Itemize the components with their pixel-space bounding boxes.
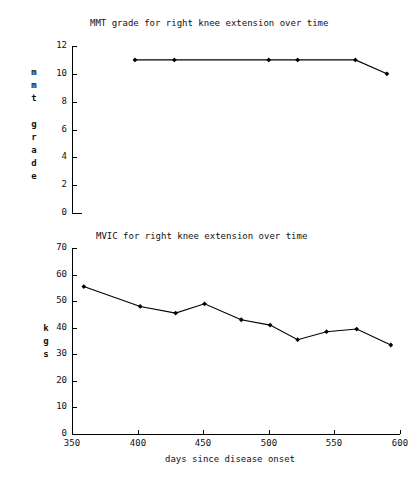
- mvic-chart-data-point: [239, 317, 244, 322]
- mvic-chart-series: [0, 0, 418, 487]
- mvic-chart-data-point: [138, 304, 143, 309]
- mvic-chart-data-point: [268, 323, 273, 328]
- mvic-chart-data-point: [202, 301, 207, 306]
- mvic-chart-data-point: [388, 343, 393, 348]
- mvic-chart-data-point: [81, 284, 86, 289]
- mvic-chart-data-point: [324, 329, 329, 334]
- mvic-chart-line: [84, 287, 391, 346]
- chart-figure: MMT grade for right knee extension over …: [0, 0, 418, 487]
- mvic-chart-data-point: [295, 337, 300, 342]
- mvic-chart-data-point: [173, 311, 178, 316]
- mvic-chart-data-point: [354, 327, 359, 332]
